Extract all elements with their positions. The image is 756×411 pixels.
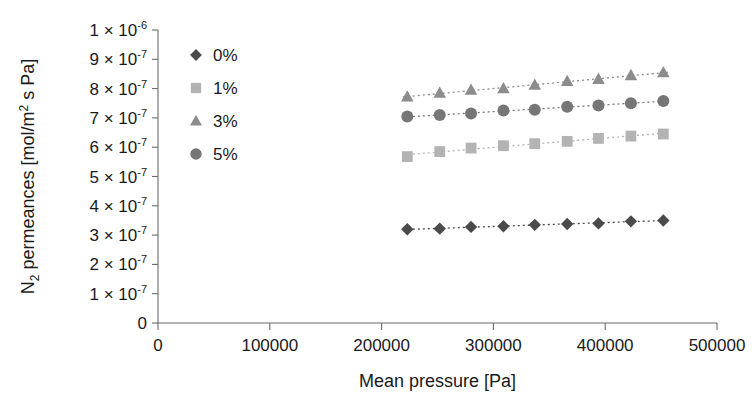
x-tick-label: 400000: [577, 336, 634, 355]
data-point-square: [529, 138, 540, 149]
chart-legend: 0%1%3%5%: [190, 46, 238, 164]
legend-label: 1%: [213, 79, 238, 98]
y-tick-label: 5 × 10-7: [89, 166, 147, 187]
data-point-diamond: [190, 49, 202, 61]
series-3pct: [401, 66, 670, 102]
y-axis-tick-labels: 01 × 10-72 × 10-73 × 10-74 × 10-75 × 10-…: [89, 19, 147, 333]
y-tick-label: 8 × 10-7: [89, 78, 147, 99]
data-point-triangle: [465, 83, 478, 94]
y-tick-label: 3 × 10-7: [89, 224, 147, 245]
series-0pct: [401, 214, 669, 235]
data-point-diamond: [561, 218, 573, 230]
data-point-circle: [465, 108, 477, 120]
data-point-triangle: [433, 86, 446, 97]
y-tick-label: 2 × 10-7: [89, 253, 147, 274]
legend-item-1pct[interactable]: 1%: [191, 79, 238, 98]
data-point-circle: [434, 109, 446, 121]
data-point-circle: [497, 105, 509, 117]
data-point-triangle: [657, 66, 670, 77]
data-point-square: [626, 131, 637, 142]
data-point-square: [658, 129, 669, 140]
data-point-diamond: [434, 222, 446, 234]
y-tick-label: 1 × 10-6: [89, 19, 147, 40]
data-point-circle: [561, 101, 573, 113]
data-series-layer: [401, 66, 670, 236]
data-point-diamond: [497, 220, 509, 232]
data-point-triangle: [561, 75, 574, 86]
data-point-square: [434, 146, 445, 157]
data-point-square: [562, 136, 573, 147]
y-tick-label: 4 × 10-7: [89, 195, 147, 216]
data-point-triangle: [625, 69, 638, 80]
y-tick-label: 6 × 10-7: [89, 136, 147, 157]
y-axis-title: N2 permeances [mol/m2 s Pa]: [17, 59, 42, 294]
series-5pct: [401, 95, 669, 123]
chart-container: 01 × 10-72 × 10-73 × 10-74 × 10-75 × 10-…: [0, 0, 756, 411]
y-tick-label: 1 × 10-7: [89, 283, 147, 304]
legend-label: 5%: [213, 145, 238, 164]
x-axis-title: Mean pressure [Pa]: [359, 371, 516, 391]
y-tick-label: 0: [138, 314, 147, 333]
legend-label: 3%: [213, 112, 238, 131]
legend-item-5pct[interactable]: 5%: [190, 145, 237, 164]
x-tick-label: 300000: [465, 336, 522, 355]
data-point-square: [498, 140, 509, 151]
x-tick-label: 100000: [241, 336, 298, 355]
y-tick-label: 9 × 10-7: [89, 48, 147, 69]
data-point-diamond: [401, 223, 413, 235]
data-point-circle: [529, 104, 541, 116]
data-point-circle: [401, 110, 413, 122]
data-point-triangle: [190, 115, 202, 126]
y-tick-label: 7 × 10-7: [89, 107, 147, 128]
legend-label: 0%: [213, 46, 238, 65]
legend-item-0pct[interactable]: 0%: [190, 46, 237, 65]
data-point-circle: [625, 97, 637, 109]
data-point-circle: [190, 148, 201, 159]
legend-item-3pct[interactable]: 3%: [190, 112, 238, 131]
series-1pct: [402, 129, 669, 162]
x-axis-tick-labels: 0100000200000300000400000500000: [153, 336, 745, 355]
permeance-scatter-chart: 01 × 10-72 × 10-73 × 10-74 × 10-75 × 10-…: [0, 0, 756, 411]
x-tick-label: 0: [153, 336, 162, 355]
data-point-square: [593, 133, 604, 144]
data-point-square: [191, 83, 201, 93]
data-point-diamond: [592, 217, 604, 229]
x-tick-label: 500000: [689, 336, 746, 355]
data-point-square: [466, 143, 477, 154]
x-tick-label: 200000: [353, 336, 410, 355]
data-point-diamond: [625, 215, 637, 227]
data-point-circle: [592, 100, 604, 112]
data-point-circle: [657, 95, 669, 107]
data-point-diamond: [657, 214, 669, 226]
data-point-triangle: [401, 90, 414, 101]
data-point-square: [402, 151, 413, 162]
data-point-diamond: [465, 221, 477, 233]
data-point-diamond: [529, 219, 541, 231]
